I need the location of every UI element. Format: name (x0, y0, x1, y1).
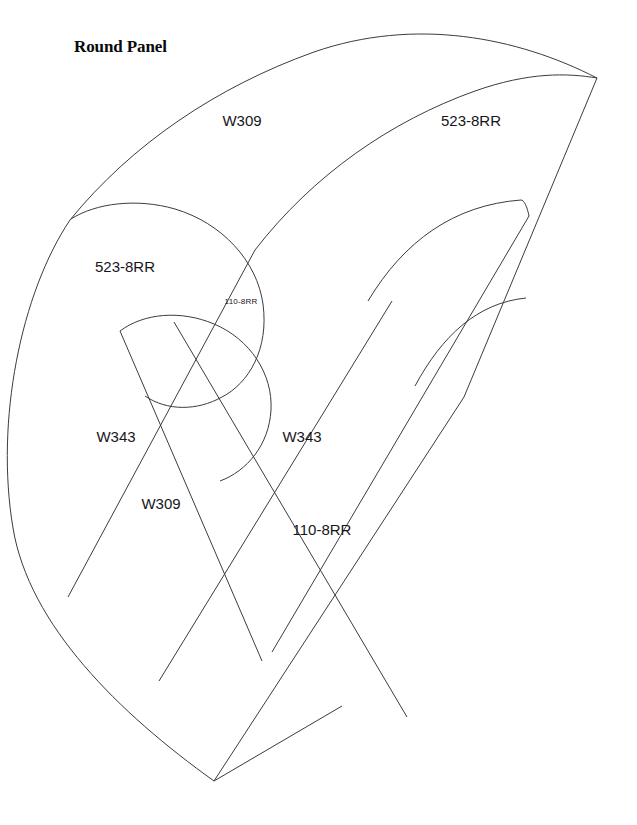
part-label-w343: W343 (96, 428, 135, 445)
part-label-w309: W309 (222, 112, 261, 129)
divider-line-4 (159, 301, 392, 681)
outer-boundary-group (7, 34, 597, 781)
divider-line-3 (174, 322, 407, 717)
part-label-523-8rr: 523-8RR (95, 258, 155, 275)
part-label-523-8rr: 523-8RR (441, 112, 501, 129)
round-panel-drawing: W309523-8RR523-8RR110-8RRW343W343W309110… (0, 0, 637, 825)
part-label-w343: W343 (282, 428, 321, 445)
right-slot-group (368, 200, 529, 386)
part-label-110-8rr: 110-8RR (293, 521, 352, 538)
slot-right-outer-arc (368, 200, 529, 301)
part-label-w309: W309 (141, 495, 180, 512)
part-label-110-8rr: 110-8RR (225, 297, 258, 306)
outer-arc-second (255, 75, 597, 250)
left-boundary-arc (7, 220, 214, 781)
part-label-layer: W309523-8RR523-8RR110-8RRW343W343W309110… (95, 112, 501, 538)
divider-line-5 (214, 397, 464, 781)
bottom-edge-segment (214, 706, 342, 781)
slot-left-inner-arc (120, 315, 271, 481)
outer-arc-top (70, 34, 597, 220)
radial-divider-group (68, 216, 529, 781)
slot-right-inner-arc (415, 298, 526, 386)
